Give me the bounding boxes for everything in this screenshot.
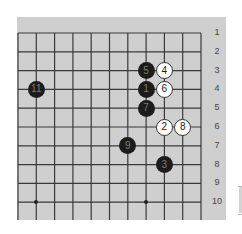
black-stone[interactable]: 5 [138,62,155,79]
row-label: 9 [207,177,227,187]
row-label: 2 [207,46,227,56]
scrollbar-bottom-edge [238,214,242,215]
white-stone[interactable]: 4 [156,62,173,79]
row-label: 7 [207,140,227,150]
black-stone[interactable]: 3 [156,156,173,173]
row-label: 8 [207,159,227,169]
row-label: 1 [207,27,227,37]
white-stone[interactable]: 8 [174,119,191,136]
row-label: 3 [207,65,227,75]
black-stone[interactable]: 1 [138,81,155,98]
board-grid [17,17,226,220]
black-stone[interactable]: 11 [28,81,45,98]
scrollbar[interactable] [239,187,242,213]
row-label: 6 [207,121,227,131]
row-label: 5 [207,102,227,112]
black-stone[interactable]: 7 [138,100,155,117]
row-label: 10 [207,196,227,206]
white-stone[interactable]: 2 [156,119,173,136]
go-board[interactable] [17,17,226,220]
row-label: 4 [207,83,227,93]
white-stone[interactable]: 6 [156,81,173,98]
